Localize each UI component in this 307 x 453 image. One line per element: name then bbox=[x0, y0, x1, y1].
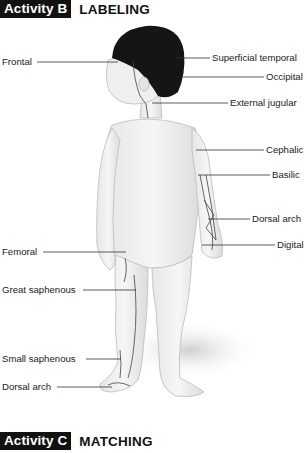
label-dorsal-arch-foot: Dorsal arch bbox=[2, 381, 51, 392]
label-small-saphenous: Small saphenous bbox=[2, 353, 76, 364]
label-dorsal-arch-hand: Dorsal arch bbox=[252, 213, 301, 224]
label-digital: Digital bbox=[277, 239, 304, 250]
label-basilic: Basilic bbox=[272, 169, 300, 180]
label-great-saphenous: Great saphenous bbox=[2, 284, 76, 295]
label-superficial-temporal: Superficial temporal bbox=[212, 52, 297, 63]
label-cephalic: Cephalic bbox=[266, 144, 303, 155]
activity-c-title: MATCHING bbox=[79, 434, 152, 449]
label-frontal: Frontal bbox=[2, 56, 32, 67]
label-femoral: Femoral bbox=[2, 246, 37, 257]
activity-c-heading: Activity C MATCHING bbox=[0, 432, 153, 450]
activity-c-tag: Activity C bbox=[0, 432, 71, 450]
label-occipital: Occipital bbox=[266, 71, 303, 82]
label-external-jugular: External jugular bbox=[230, 97, 297, 108]
ear bbox=[139, 77, 149, 91]
head bbox=[106, 26, 184, 104]
leg-left bbox=[100, 255, 148, 392]
